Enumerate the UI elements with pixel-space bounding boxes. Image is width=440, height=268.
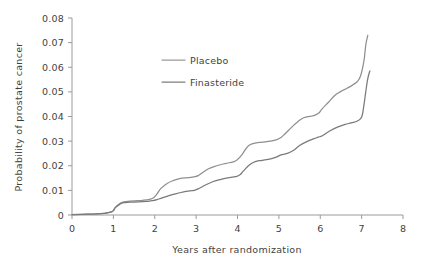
y-axis-tick-labels: 00.010.020.030.040.050.060.070.08	[42, 13, 64, 221]
chart-figure: 00.010.020.030.040.050.060.070.08 Probab…	[0, 0, 440, 268]
y-tick-label: 0.08	[42, 13, 64, 24]
y-tick-label: 0.06	[42, 62, 64, 73]
x-axis-ticks	[72, 215, 403, 219]
x-axis-title: Years after randomization	[171, 244, 302, 255]
series-line-finasteride	[72, 71, 370, 215]
x-tick-label: 6	[317, 223, 323, 234]
legend: Placebo Finasteride	[162, 55, 244, 88]
x-tick-label: 4	[234, 223, 240, 234]
x-tick-label: 5	[276, 223, 282, 234]
x-tick-label: 7	[359, 223, 365, 234]
y-tick-label: 0.01	[42, 185, 64, 196]
y-tick-label: 0.05	[42, 86, 64, 97]
y-axis-group: 00.010.020.030.040.050.060.070.08 Probab…	[13, 13, 72, 221]
y-tick-label: 0	[58, 210, 64, 221]
legend-label-finasteride: Finasteride	[190, 77, 244, 88]
x-tick-label: 8	[400, 223, 406, 234]
legend-label-placebo: Placebo	[190, 55, 229, 66]
x-axis-tick-labels: 012345678	[69, 223, 406, 234]
y-tick-label: 0.07	[42, 37, 64, 48]
y-axis-ticks	[68, 18, 72, 215]
y-tick-label: 0.03	[42, 136, 64, 147]
x-tick-label: 0	[69, 223, 75, 234]
x-tick-label: 1	[110, 223, 116, 234]
chart-svg: 00.010.020.030.040.050.060.070.08 Probab…	[0, 0, 440, 268]
x-tick-label: 2	[152, 223, 158, 234]
y-tick-label: 0.02	[42, 160, 64, 171]
y-tick-label: 0.04	[42, 111, 64, 122]
x-tick-label: 3	[193, 223, 199, 234]
y-axis-title: Probability of prostate cancer	[13, 42, 24, 191]
x-axis-group: 012345678 Years after randomization	[69, 215, 406, 255]
